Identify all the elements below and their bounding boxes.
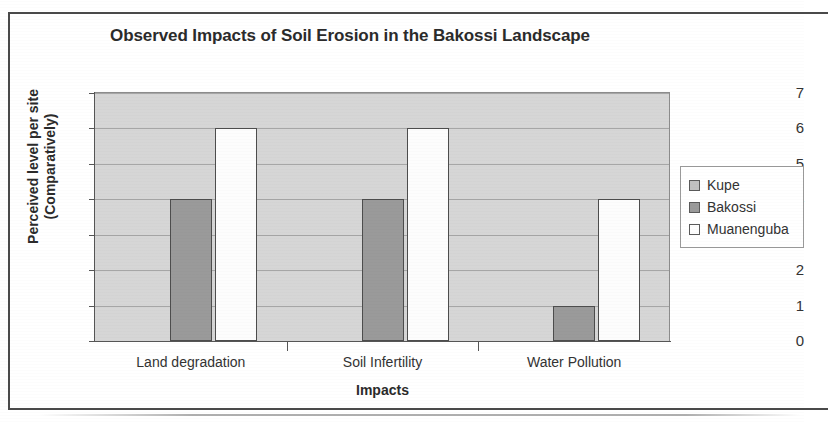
bar: [362, 199, 404, 341]
bar: [407, 128, 449, 341]
legend-item-label: Bakossi: [707, 199, 756, 215]
y-axis-line: [94, 92, 95, 342]
scan-edge-artifact: [40, 414, 800, 416]
chart-legend: KupeBakossiMuanenguba: [680, 166, 804, 248]
y-tick-mark: [89, 270, 95, 271]
x-axis-title: Impacts: [95, 382, 670, 398]
legend-swatch-icon: [689, 224, 700, 235]
y-tick-mark: [89, 235, 95, 236]
legend-item[interactable]: Kupe: [689, 174, 796, 196]
y-tick-label: 0: [720, 333, 804, 348]
legend-item-label: Muanenguba: [707, 221, 789, 237]
legend-swatch-icon: [689, 180, 700, 191]
y-tick-mark: [89, 164, 95, 165]
x-axis-separator-tick: [287, 342, 288, 351]
y-axis-title-line-1: Perceived level per site: [25, 52, 42, 282]
plot-top-border: [95, 92, 670, 93]
y-tick-label: 6: [720, 120, 804, 135]
y-tick-mark: [89, 341, 95, 342]
y-axis-title: Perceived level per site (Comparatively): [25, 52, 58, 282]
x-axis-category-label: Land degradation: [95, 354, 287, 370]
bar: [553, 306, 595, 341]
y-tick-mark: [89, 306, 95, 307]
bar: [215, 128, 257, 341]
y-tick-mark: [89, 93, 95, 94]
legend-item[interactable]: Bakossi: [689, 196, 796, 218]
x-axis-category-label: Soil Infertility: [287, 354, 479, 370]
legend-swatch-icon: [689, 202, 700, 213]
y-tick-mark: [89, 128, 95, 129]
chart-title: Observed Impacts of Soil Erosion in the …: [0, 26, 700, 46]
y-tick-label: 1: [720, 298, 804, 313]
x-axis-separator-tick: [478, 342, 479, 351]
legend-item-label: Kupe: [707, 177, 740, 193]
bar: [598, 199, 640, 341]
y-axis-title-line-2: (Comparatively): [42, 52, 59, 282]
y-tick-label: 2: [720, 262, 804, 277]
gridline: [95, 164, 670, 165]
y-tick-mark: [89, 199, 95, 200]
bar: [170, 199, 212, 341]
gridline: [95, 93, 670, 94]
x-axis-category-label: Water Pollution: [478, 354, 670, 370]
x-axis-line: [94, 341, 671, 342]
y-tick-label: 7: [720, 85, 804, 100]
plot-right-border: [669, 92, 670, 342]
legend-item[interactable]: Muanenguba: [689, 218, 796, 240]
gridline: [95, 128, 670, 129]
